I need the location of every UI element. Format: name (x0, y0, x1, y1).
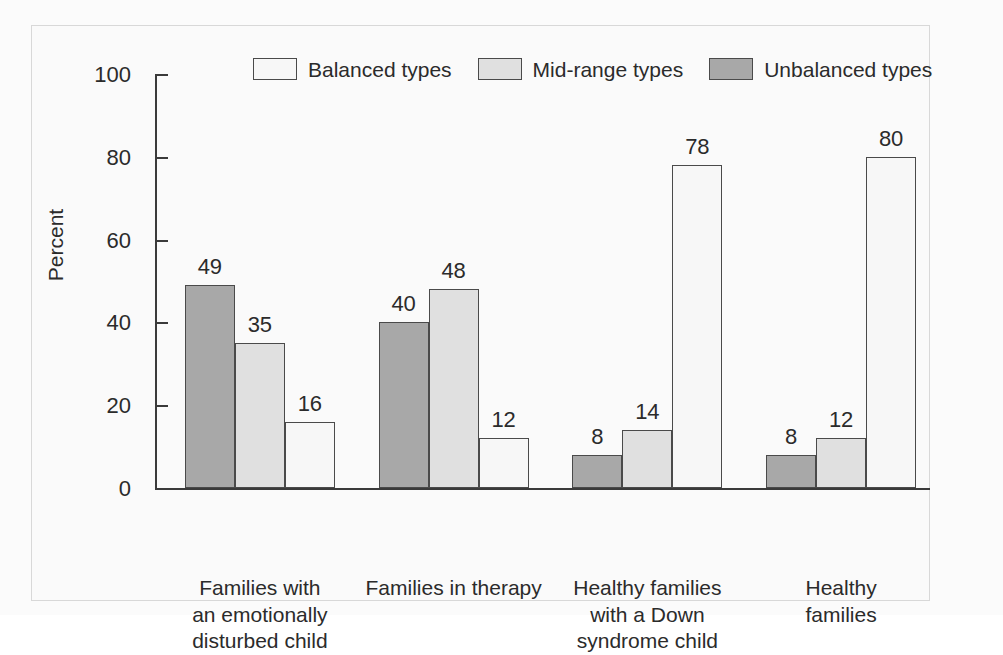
bar-value-label: 8 (591, 426, 603, 448)
bar-unbalanced-types-group-4[interactable] (766, 455, 816, 488)
y-axis-tick-label: 0 (119, 478, 131, 500)
y-axis-line (155, 75, 157, 489)
bar-unbalanced-types-group-3[interactable] (572, 455, 622, 488)
x-axis-category-label: Families with an emotionally disturbed c… (192, 575, 327, 655)
bar-value-label: 35 (248, 314, 272, 336)
x-axis-category-label: Families in therapy (366, 575, 542, 602)
y-axis-tick (155, 74, 168, 76)
y-axis-labels: 020406080100 (0, 75, 145, 489)
bar-value-label: 48 (441, 260, 465, 282)
bar-mid-range-types-group-4[interactable] (816, 438, 866, 488)
bar-balanced-types-group-4[interactable] (866, 157, 916, 488)
bar-mid-range-types-group-1[interactable] (235, 343, 285, 488)
plot-area: 493516Families with an emotionally distu… (155, 75, 930, 489)
y-axis-title: Percent (44, 185, 68, 305)
y-axis-tick (155, 322, 168, 324)
bar-value-label: 16 (298, 393, 322, 415)
bar-balanced-types-group-2[interactable] (479, 438, 529, 488)
x-axis-line (155, 488, 930, 490)
bar-balanced-types-group-3[interactable] (672, 165, 722, 488)
y-axis-tick-label: 20 (107, 395, 131, 417)
bar-value-label: 14 (635, 401, 659, 423)
y-axis-tick (155, 405, 168, 407)
x-axis-category-label: Healthy families with a Down syndrome ch… (573, 575, 721, 655)
y-axis-tick-label: 80 (107, 147, 131, 169)
y-axis-tick-label: 100 (94, 64, 131, 86)
bar-value-label: 12 (491, 409, 515, 431)
bar-mid-range-types-group-2[interactable] (429, 289, 479, 488)
bar-value-label: 78 (685, 136, 709, 158)
y-axis-tick (155, 240, 168, 242)
bar-mid-range-types-group-3[interactable] (622, 430, 672, 488)
bar-unbalanced-types-group-1[interactable] (185, 285, 235, 488)
bar-unbalanced-types-group-2[interactable] (379, 322, 429, 488)
bar-value-label: 12 (829, 409, 853, 431)
bar-balanced-types-group-1[interactable] (285, 422, 335, 488)
bar-value-label: 80 (879, 128, 903, 150)
bar-value-label: 8 (785, 426, 797, 448)
x-axis-category-label: Healthy families (797, 575, 886, 628)
y-axis-tick-label: 60 (107, 230, 131, 252)
bar-value-label: 40 (391, 293, 415, 315)
y-axis-tick (155, 488, 168, 490)
bar-value-label: 49 (198, 256, 222, 278)
y-axis-tick (155, 157, 168, 159)
y-axis-tick-label: 40 (107, 312, 131, 334)
